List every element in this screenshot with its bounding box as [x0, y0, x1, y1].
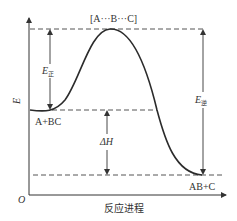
forward-activation-label: E正 [41, 65, 54, 77]
reverse-activation-label: E逆 [194, 94, 207, 107]
y-axis-label: E [11, 98, 22, 105]
origin-label: O [18, 194, 25, 205]
energy-diagram: [A···B···C] E E正 E逆 ΔH A+BC AB+C O 反应进程 [0, 0, 237, 221]
enthalpy-label: ΔH [99, 136, 114, 147]
x-axis-label: 反应进程 [104, 202, 144, 214]
transition-state-label: [A···B···C] [90, 13, 137, 24]
products-label: AB+C [189, 181, 216, 192]
energy-curve [30, 29, 202, 175]
reactants-label: A+BC [35, 116, 62, 127]
